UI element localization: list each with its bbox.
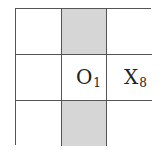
cell-r1-c2: X8 bbox=[107, 55, 152, 101]
cell-r2-c2 bbox=[107, 101, 152, 146]
cell-r0-c2 bbox=[107, 9, 152, 55]
cell-r0-c1-shaded bbox=[62, 9, 107, 55]
cell-r0-c0 bbox=[16, 9, 62, 55]
cell-r2-c1-shaded bbox=[62, 101, 107, 146]
x-mark: X8 bbox=[124, 65, 147, 90]
tic-tac-toe-board: O1 X8 bbox=[15, 8, 151, 145]
cell-r1-c0 bbox=[16, 55, 62, 101]
cell-r2-c0 bbox=[16, 101, 62, 146]
o-mark: O1 bbox=[76, 65, 101, 90]
move-index: 8 bbox=[139, 76, 147, 90]
cell-r1-c1: O1 bbox=[62, 55, 107, 101]
move-index: 1 bbox=[93, 76, 101, 90]
